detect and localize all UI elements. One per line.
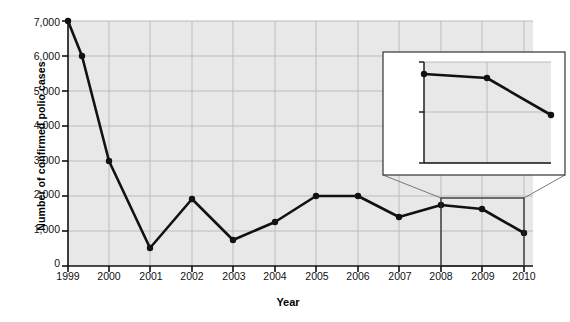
inset-data-point-2008 bbox=[421, 71, 427, 77]
inset-data-point-2010 bbox=[548, 112, 554, 118]
inset-data-point-2009 bbox=[484, 75, 490, 81]
data-point-2009 bbox=[479, 206, 485, 212]
chart-canvas: Number of confirmed polio cases Year 7,0… bbox=[0, 0, 570, 322]
data-point-2007 bbox=[396, 214, 402, 220]
data-point-2003 bbox=[230, 237, 236, 243]
data-point-2001 bbox=[147, 245, 153, 251]
data-point-2002 bbox=[189, 196, 195, 202]
inset-chart bbox=[383, 52, 565, 175]
chart-svg bbox=[0, 0, 570, 322]
data-point-2005 bbox=[313, 193, 319, 199]
data-point-1999 bbox=[65, 18, 71, 24]
data-point-2000 bbox=[106, 158, 112, 164]
data-point-1999-mid bbox=[79, 53, 85, 59]
data-point-2004 bbox=[272, 219, 278, 225]
data-point-2006 bbox=[355, 193, 361, 199]
y-axis-ticks bbox=[62, 21, 68, 266]
x-axis-ticks bbox=[68, 266, 524, 272]
